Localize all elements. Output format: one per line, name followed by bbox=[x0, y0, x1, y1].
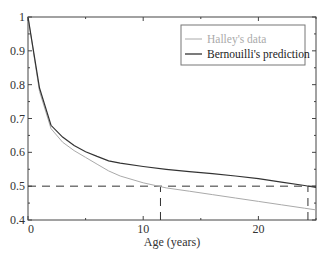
survival-chart: 0.40.50.60.70.80.91 01020 Age (years) Ha… bbox=[0, 0, 328, 256]
y-tick-label: 0.8 bbox=[10, 78, 25, 92]
y-tick-label: 0.9 bbox=[10, 44, 25, 58]
y-tick-label: 0.5 bbox=[10, 179, 25, 193]
y-tick-label: 1 bbox=[19, 10, 25, 24]
y-tick-label: 0.7 bbox=[10, 112, 25, 126]
x-tick-label: 0 bbox=[28, 222, 34, 236]
y-tick-label: 0.6 bbox=[10, 145, 25, 159]
y-tick-label: 0.4 bbox=[10, 213, 25, 227]
legend-label-halley: Halley's data bbox=[207, 33, 266, 46]
legend: Halley's data Bernouilli's prediction bbox=[181, 25, 310, 65]
legend-label-bernouilli: Bernouilli's prediction bbox=[207, 48, 310, 61]
x-axis-label: Age (years) bbox=[144, 235, 200, 249]
x-tick-label: 20 bbox=[252, 222, 264, 236]
x-tick-label: 10 bbox=[137, 222, 149, 236]
